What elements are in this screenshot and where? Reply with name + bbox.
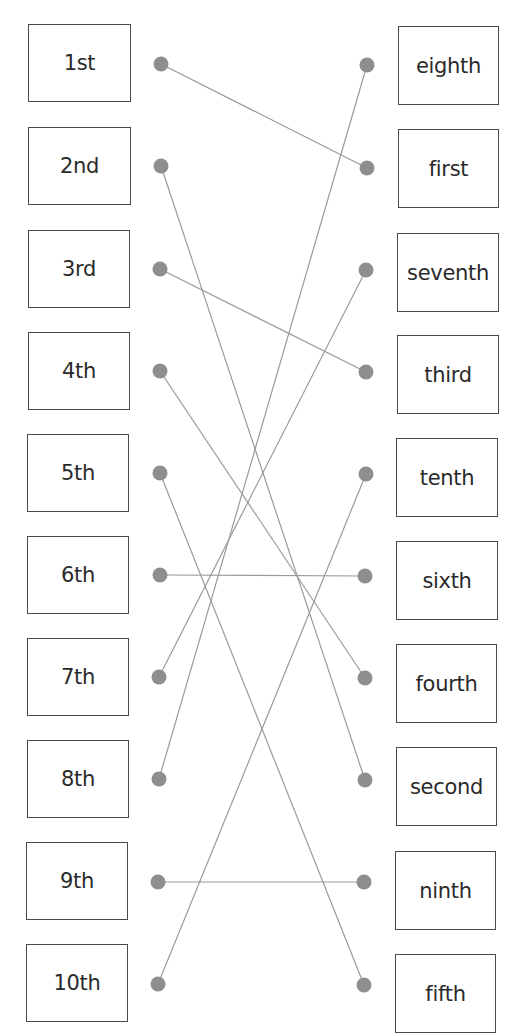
right-box-second: second	[396, 747, 497, 826]
left-connector-dot-icon[interactable]	[153, 568, 168, 583]
right-connector-dot-icon[interactable]	[360, 58, 375, 73]
left-connector-dot-icon[interactable]	[152, 772, 167, 787]
right-label: sixth	[422, 569, 471, 593]
connection-line-6th-sixth	[160, 575, 365, 576]
left-label: 5th	[61, 461, 95, 485]
connection-line-7th-seventh	[159, 270, 366, 677]
connection-line-4th-fourth	[160, 371, 365, 678]
left-label: 1st	[64, 51, 96, 75]
left-box-3rd: 3rd	[28, 230, 130, 308]
right-label: third	[424, 363, 471, 387]
connection-line-3rd-third	[160, 269, 366, 372]
left-connector-dot-icon[interactable]	[151, 977, 166, 992]
left-connector-dot-icon[interactable]	[153, 262, 168, 277]
left-label: 3rd	[62, 257, 96, 281]
right-connector-dot-icon[interactable]	[358, 671, 373, 686]
right-box-third: third	[397, 335, 499, 414]
left-connector-dot-icon[interactable]	[154, 159, 169, 174]
left-connector-dot-icon[interactable]	[152, 670, 167, 685]
left-label: 9th	[60, 869, 94, 893]
left-box-10th: 10th	[26, 944, 128, 1022]
right-box-fifth: fifth	[395, 954, 496, 1033]
left-label: 2nd	[60, 154, 99, 178]
right-box-ninth: ninth	[395, 851, 496, 930]
connection-line-10th-tenth	[158, 474, 366, 984]
left-connector-dot-icon[interactable]	[151, 875, 166, 890]
connection-line-8th-eighth	[159, 65, 367, 779]
right-box-first: first	[398, 129, 499, 208]
right-connector-dot-icon[interactable]	[359, 263, 374, 278]
right-connector-dot-icon[interactable]	[359, 365, 374, 380]
left-box-7th: 7th	[27, 638, 129, 716]
right-label: fourth	[416, 672, 478, 696]
right-box-tenth: tenth	[396, 438, 498, 517]
left-connector-dot-icon[interactable]	[153, 466, 168, 481]
right-connector-dot-icon[interactable]	[359, 467, 374, 482]
right-connector-dot-icon[interactable]	[357, 875, 372, 890]
right-connector-dot-icon[interactable]	[358, 569, 373, 584]
right-label: tenth	[420, 466, 475, 490]
right-box-eighth: eighth	[398, 26, 499, 105]
left-label: 7th	[61, 665, 95, 689]
right-box-fourth: fourth	[396, 644, 497, 723]
left-label: 4th	[62, 359, 96, 383]
right-connector-dot-icon[interactable]	[360, 161, 375, 176]
right-connector-dot-icon[interactable]	[358, 773, 373, 788]
right-box-sixth: sixth	[396, 541, 498, 620]
left-box-4th: 4th	[28, 332, 130, 410]
connection-line-1st-first	[161, 64, 367, 168]
left-box-1st: 1st	[28, 24, 131, 102]
left-box-6th: 6th	[27, 536, 129, 614]
right-label: first	[429, 157, 469, 181]
right-label: seventh	[407, 261, 489, 285]
right-label: fifth	[425, 982, 465, 1006]
right-label: second	[410, 775, 483, 799]
right-label: eighth	[416, 54, 481, 78]
left-box-8th: 8th	[27, 740, 129, 818]
right-box-seventh: seventh	[397, 233, 499, 312]
left-box-2nd: 2nd	[28, 127, 131, 205]
left-label: 10th	[53, 971, 100, 995]
left-box-5th: 5th	[27, 434, 129, 512]
left-connector-dot-icon[interactable]	[154, 57, 169, 72]
left-label: 6th	[61, 563, 95, 587]
left-label: 8th	[61, 767, 95, 791]
left-box-9th: 9th	[26, 842, 128, 920]
left-connector-dot-icon[interactable]	[153, 364, 168, 379]
right-connector-dot-icon[interactable]	[357, 978, 372, 993]
right-label: ninth	[419, 879, 472, 903]
